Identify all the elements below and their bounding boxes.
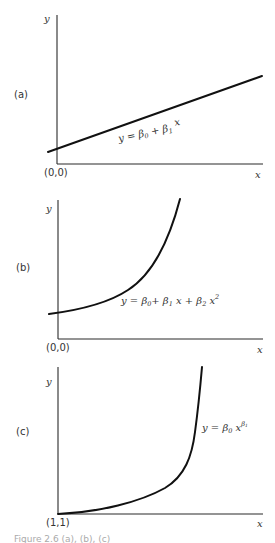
panel-b-y-label: y (45, 203, 52, 214)
panel-a-x-label: x (255, 169, 261, 180)
panel-c: y (c) (1,1) x y = β0 xβ1 (16, 367, 263, 529)
svg-text:y = β0 + β1 x: y = β0 + β1 x (115, 116, 182, 146)
panel-a-linear-line (48, 76, 262, 152)
panel-a-equation: y = β0 + β1 x (115, 116, 182, 146)
panel-a-y-label: y (43, 13, 50, 24)
panel-c-y-label: y (45, 376, 52, 387)
panel-b: y (b) (0,0) x y = β0+ β1 x + β2 x2 (16, 199, 263, 355)
panel-a: y (a) (0,0) x y = β0 + β1 x (14, 13, 263, 180)
panel-b-x-label: x (257, 344, 263, 355)
panel-c-equation: y = β0 xβ1 (201, 420, 248, 435)
panel-a-origin-label: (0,0) (44, 167, 68, 178)
panel-c-tag: (c) (16, 426, 29, 437)
panel-b-origin-label: (0,0) (46, 342, 70, 353)
panel-c-power-curve (58, 367, 202, 514)
panel-c-origin-label: (1,1) (46, 517, 70, 528)
figure-svg: y (a) (0,0) x y = β0 + β1 x y (b) (0,0) … (0, 0, 275, 543)
panel-c-x-label: x (257, 518, 263, 529)
figure-caption: Figure 2.6 (a), (b), (c) (14, 534, 264, 543)
panel-a-tag: (a) (14, 89, 28, 100)
figure: y (a) (0,0) x y = β0 + β1 x y (b) (0,0) … (0, 0, 275, 543)
panel-b-tag: (b) (16, 262, 30, 273)
panel-b-equation: y = β0+ β1 x + β2 x2 (120, 293, 219, 308)
